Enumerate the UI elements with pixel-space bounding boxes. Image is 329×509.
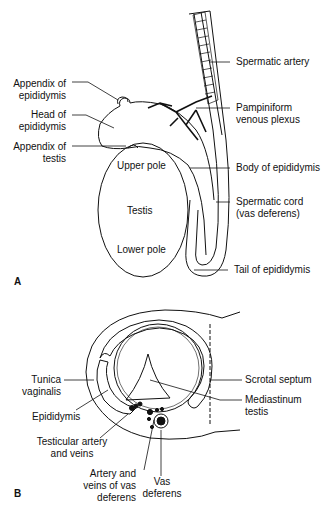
panel-label-a: A bbox=[14, 276, 21, 287]
pampiniform-label: Pampiniform venous plexus bbox=[236, 102, 300, 126]
testicular-artery-label: Testicular artery and veins bbox=[32, 436, 112, 460]
spermatic-artery-label: Spermatic artery bbox=[236, 56, 309, 68]
artery-vas-deferens-label: Artery and veins of vas deferens bbox=[83, 468, 136, 504]
panel-label-b: B bbox=[14, 488, 21, 499]
mediastinum-label: Mediastinum testis bbox=[245, 394, 302, 418]
tunica-vaginalis-label: Tunica vaginalis bbox=[22, 374, 61, 398]
spermatic-cord-label: Spermatic cord (vas deferens) bbox=[236, 196, 303, 220]
tunica-vaginalis bbox=[100, 320, 212, 408]
pampiniform-plexus-icon bbox=[148, 96, 212, 140]
scrotal-septum-label: Scrotal septum bbox=[245, 374, 312, 386]
mediastinum bbox=[126, 354, 170, 400]
testis-label: Testis bbox=[127, 205, 153, 216]
head-epididymis-label: Head of epididymis bbox=[19, 109, 66, 133]
epididymis-head bbox=[98, 106, 206, 255]
tail-epididymis-label: Tail of epididymis bbox=[234, 264, 310, 276]
body-epididymis-label: Body of epididymis bbox=[236, 162, 320, 174]
vas-deferens-label: Vas deferens bbox=[140, 476, 184, 500]
epididymis-label: Epididymis bbox=[32, 411, 80, 423]
appendix-epididymis-label: Appendix of epididymis bbox=[13, 78, 66, 102]
upper-pole-label: Upper pole bbox=[117, 160, 166, 171]
appendix-testis-label: Appendix of testis bbox=[13, 141, 66, 165]
lower-pole-label: Lower pole bbox=[117, 244, 166, 255]
